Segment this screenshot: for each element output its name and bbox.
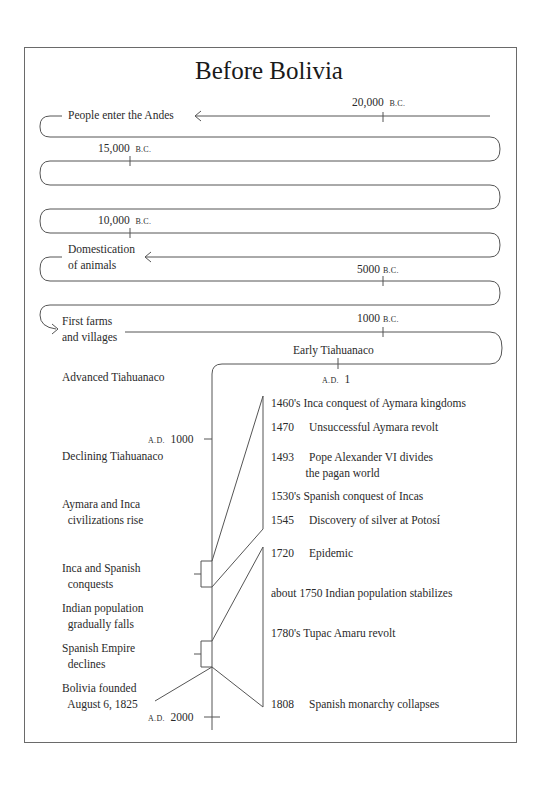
event-domestication: Domestication of animals xyxy=(68,241,135,273)
period-inca-spanish-conquests: Inca and Spanish conquests xyxy=(62,560,141,592)
marker-ad1: A.D. 1 xyxy=(322,372,350,388)
marker-20000bc: 20,000 B.C. xyxy=(352,95,405,111)
period-aymara-inca-rise: Aymara and Inca civilizations rise xyxy=(62,496,143,528)
event-people-enter-andes: People enter the Andes xyxy=(68,108,174,122)
detail-event-1780s: 1780's Tupac Amaru revolt xyxy=(271,626,395,640)
event-early-tiahuanaco: Early Tiahuanaco xyxy=(293,343,374,357)
curve-right-2 xyxy=(50,185,500,209)
marker-1000bc: 1000 B.C. xyxy=(357,311,399,327)
period-indian-population-falls: Indian population gradually falls xyxy=(62,600,143,632)
marker-15000bc: 15,000 B.C. xyxy=(98,141,151,157)
marker-10000bc: 10,000 B.C. xyxy=(98,213,151,229)
diagonal-3 xyxy=(212,547,263,641)
detail-event-1470: 1470Unsuccessful Aymara revolt xyxy=(271,420,438,434)
period-advanced-tiahuanaco: Advanced Tiahuanaco xyxy=(62,370,165,384)
bracket-inca-spanish xyxy=(201,561,212,587)
curve-right-5 xyxy=(212,332,502,730)
period-bolivia-founded: Bolivia founded August 6, 1825 xyxy=(62,680,138,712)
marker-ad2000: A.D. 2000 xyxy=(148,710,194,726)
detail-event-1720: 1720Epidemic xyxy=(271,546,353,560)
curve-left-2 xyxy=(40,161,490,185)
detail-event-1493: 1493Pope Alexander VI divides the pagan … xyxy=(271,449,433,481)
bracket-spanish-empire xyxy=(201,641,212,667)
detail-event-1530s: 1530's Spanish conquest of Incas xyxy=(271,489,423,503)
period-spanish-empire-declines: Spanish Empire declines xyxy=(62,640,135,672)
diagonal-bolivia xyxy=(155,667,212,701)
marker-5000bc: 5000 B.C. xyxy=(357,262,399,278)
detail-event-1545: 1545Discovery of silver at Potosí xyxy=(271,513,440,527)
event-first-farms: First farms and villages xyxy=(62,313,117,345)
detail-event-1460s: 1460's Inca conquest of Aymara kingdoms xyxy=(271,396,466,410)
diagonal-1 xyxy=(212,396,263,561)
marker-ad1000: A.D. 1000 xyxy=(148,432,194,448)
curve-right-3 xyxy=(145,233,500,257)
detail-event-1808: 1808Spanish monarchy collapses xyxy=(271,697,439,711)
diagonal-4 xyxy=(212,667,263,707)
detail-event-1750: about 1750 Indian population stabilizes xyxy=(271,586,452,600)
curve-right-4 xyxy=(50,281,500,305)
period-declining-tiahuanaco: Declining Tiahuanaco xyxy=(62,449,163,463)
